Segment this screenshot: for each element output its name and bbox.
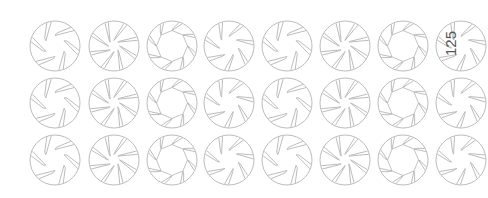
aperture-ring-icon	[376, 76, 430, 130]
aperture-6-blade-icon	[260, 133, 314, 187]
aperture-6-blade-icon	[28, 19, 82, 73]
aperture-6-blade-icon	[260, 19, 314, 73]
aperture-8-blade-icon	[87, 133, 141, 187]
aperture-7-blade-icon	[202, 133, 256, 187]
aperture-ring-icon	[145, 76, 199, 130]
aperture-ring-icon	[376, 133, 430, 187]
aperture-8-blade-icon	[318, 19, 372, 73]
aperture-8-blade-icon	[318, 133, 372, 187]
aperture-7-blade-icon	[434, 133, 488, 187]
aperture-ring-icon	[145, 133, 199, 187]
aperture-ring-icon	[145, 19, 199, 73]
aperture-6-blade-icon	[28, 133, 82, 187]
aperture-6-blade-icon	[28, 76, 82, 130]
sheet-number-label: 125	[443, 31, 458, 56]
aperture-7-blade-icon	[434, 76, 488, 130]
aperture-7-blade-icon	[202, 19, 256, 73]
aperture-8-blade-icon	[318, 76, 372, 130]
aperture-ring-icon	[376, 19, 430, 73]
aperture-8-blade-icon	[87, 19, 141, 73]
aperture-7-blade-icon	[202, 76, 256, 130]
aperture-8-blade-icon	[87, 76, 141, 130]
aperture-6-blade-icon	[260, 76, 314, 130]
